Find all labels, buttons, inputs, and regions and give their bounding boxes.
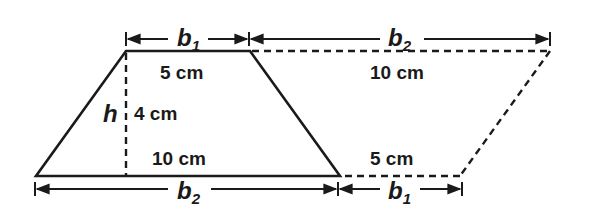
label-bottom-base-length: 10 cm [152,148,206,169]
label-extension-bottom-length: 5 cm [370,148,413,169]
label-bottom-b2: b2 [177,177,201,207]
trapezoid-parallelogram-diagram: b1 b2 b2 b1 h 5 cm 4 cm 10 cm 10 cm 5 cm [0,0,590,223]
label-height-var: h [103,100,118,127]
label-top-base-length: 5 cm [160,62,203,83]
label-height-length: 4 cm [134,103,177,124]
label-top-b1: b1 [177,24,200,54]
label-top-b2: b2 [388,24,412,54]
label-extension-top-length: 10 cm [370,62,424,83]
label-bottom-b1: b1 [388,177,411,207]
dashed-right-edge [460,51,550,176]
